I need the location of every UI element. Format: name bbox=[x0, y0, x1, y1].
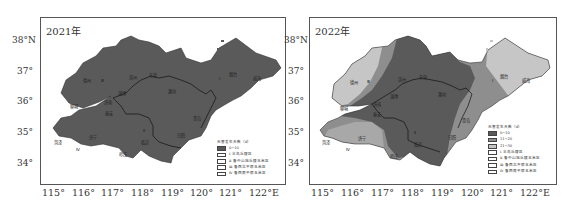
city-label: 德州 bbox=[83, 77, 91, 84]
city-label: 济宁 bbox=[89, 134, 97, 141]
lon-label-119: 119° bbox=[161, 187, 184, 198]
legend-item: 0~10 bbox=[217, 146, 269, 151]
lat-label-37: 37° bbox=[17, 66, 33, 76]
map-frame-2022: 2022年 bbox=[309, 17, 557, 185]
zone-label: Ⅳ bbox=[76, 147, 80, 152]
lon-label-119: 119° bbox=[431, 187, 454, 198]
lon-label-121: 121° bbox=[490, 187, 513, 198]
city-label: 济南 bbox=[104, 99, 112, 106]
city-label: 潍坊 bbox=[168, 88, 176, 95]
city-label: 临沂 bbox=[414, 141, 422, 148]
city-label: 枣庄 bbox=[390, 153, 398, 160]
lon-label-120: 120° bbox=[461, 187, 484, 198]
map-panel-2021: 38°N 37° 36° 35° 34° 2021年 德州 Ⅲ 滨州 东营 聊城… bbox=[0, 0, 286, 211]
legend-item: 11~20 bbox=[488, 137, 540, 142]
city-label: 潍坊 bbox=[438, 91, 446, 98]
zone-label: Ⅰ bbox=[219, 76, 220, 81]
legend-2021: 无害发生天数（d） 0~10 Ⅰ 半岛丘陵区 Ⅱ 鲁中山地丘陵玉米区 Ⅲ 鲁西北… bbox=[217, 141, 269, 178]
city-label: 东营 bbox=[149, 72, 157, 79]
city-label: 泰安 bbox=[105, 110, 113, 117]
lon-label-117: 117° bbox=[101, 187, 124, 198]
zone-label: Ⅱ bbox=[143, 128, 145, 133]
lat-label-37: 37° bbox=[288, 66, 304, 76]
legend-item: Ⅰ 半岛丘陵区 bbox=[488, 150, 540, 155]
lon-label-115: 115° bbox=[42, 187, 65, 198]
city-label: 济宁 bbox=[358, 135, 366, 142]
lon-label-122: 122°E bbox=[249, 187, 279, 198]
city-label: 临沂 bbox=[141, 139, 149, 146]
legend-item: Ⅳ 鲁西南平原玉米区 bbox=[217, 172, 269, 177]
lon-label-116: 116° bbox=[341, 187, 364, 198]
zone-label: Ⅲ bbox=[101, 78, 104, 83]
lon-label-122: 122°E bbox=[520, 187, 550, 198]
legend-item: 21~30 bbox=[488, 144, 540, 149]
legend-title: 无害发生天数（d） bbox=[488, 126, 540, 130]
lat-label-38: 38°N bbox=[12, 35, 36, 45]
city-label: 烟台 bbox=[229, 71, 237, 78]
lat-label-36: 36° bbox=[288, 96, 304, 106]
lon-label-117: 117° bbox=[371, 187, 394, 198]
legend-item: 0~10 bbox=[488, 131, 540, 136]
legend-item: Ⅰ 半岛丘陵区 bbox=[217, 152, 269, 157]
legend-item: Ⅲ 鲁西北平原玉米区 bbox=[488, 163, 540, 168]
zone-label: Ⅰ bbox=[492, 78, 493, 83]
zone-label: Ⅱ bbox=[414, 130, 416, 135]
lat-label-35: 35° bbox=[288, 127, 304, 137]
city-label: 淄博 bbox=[118, 90, 127, 97]
lat-label-34: 34° bbox=[17, 158, 33, 168]
map-frame-2021: 2021年 德州 Ⅲ 滨州 东营 聊城 淄博 潍坊 济南 泰安 青岛 菏泽 济宁… bbox=[40, 17, 286, 185]
city-label: 菏泽 bbox=[322, 139, 330, 146]
lat-label-36: 36° bbox=[17, 96, 33, 106]
city-label: 聊城 bbox=[70, 103, 79, 110]
lon-label-118: 118° bbox=[131, 187, 154, 198]
city-label: 德州 bbox=[350, 79, 358, 86]
legend-item: Ⅳ 鲁西南平原玉米区 bbox=[488, 169, 540, 174]
city-label: 聊城 bbox=[340, 105, 349, 112]
city-label: 青岛 bbox=[193, 115, 201, 122]
city-label: 泰安 bbox=[373, 111, 381, 118]
zone-label: Ⅲ bbox=[367, 79, 370, 84]
city-label: 东营 bbox=[419, 74, 427, 81]
city-label: 滨州 bbox=[398, 76, 406, 83]
legend-item: Ⅱ 鲁中山地丘陵玉米区 bbox=[217, 159, 269, 164]
city-label: 滨州 bbox=[129, 74, 137, 81]
lat-label-35: 35° bbox=[17, 127, 33, 137]
lon-label-118: 118° bbox=[401, 187, 424, 198]
map-panel-2022: 38°N 37° 36° 35° 34° 2022年 bbox=[286, 0, 572, 211]
zone-label: Ⅳ bbox=[346, 147, 350, 152]
legend-2022: 无害发生天数（d） 0~10 11~20 21~30 Ⅰ 半岛丘陵区 Ⅱ 鲁中山… bbox=[488, 126, 540, 176]
lon-label-120: 120° bbox=[190, 187, 213, 198]
legend-item: Ⅱ 鲁中山地丘陵玉米区 bbox=[488, 157, 540, 162]
city-label: 淄博 bbox=[390, 93, 399, 100]
legend-item: Ⅲ 鲁西北平原玉米区 bbox=[217, 165, 269, 170]
city-label: 青岛 bbox=[462, 117, 470, 124]
city-label: 威海 bbox=[253, 75, 262, 82]
city-label: 烟台 bbox=[500, 73, 508, 80]
city-label: 济南 bbox=[373, 101, 381, 108]
lat-label-38: 38°N bbox=[284, 35, 308, 45]
city-label: 枣庄 bbox=[119, 151, 127, 158]
lon-label-115: 115° bbox=[311, 187, 334, 198]
lon-label-121: 121° bbox=[219, 187, 242, 198]
city-label: 菏泽 bbox=[54, 139, 62, 146]
city-label: 威海 bbox=[522, 77, 531, 84]
lon-label-116: 116° bbox=[72, 187, 95, 198]
legend-title: 无害发生天数（d） bbox=[217, 141, 269, 145]
lat-label-34: 34° bbox=[288, 158, 304, 168]
